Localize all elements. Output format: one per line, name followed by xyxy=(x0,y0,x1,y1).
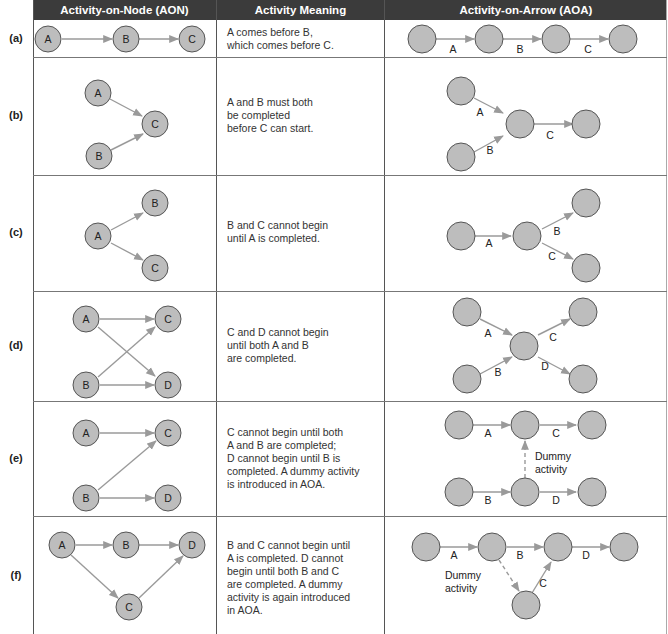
svg-text:B: B xyxy=(82,492,89,504)
svg-text:B: B xyxy=(516,43,523,55)
aoa-diagram-d: A B C D xyxy=(453,298,597,393)
svg-text:C: C xyxy=(125,601,133,613)
svg-text:B: B xyxy=(484,494,491,506)
svg-text:C: C xyxy=(552,427,560,439)
svg-text:A: A xyxy=(476,106,483,118)
svg-text:B: B xyxy=(494,366,501,378)
svg-text:C: C xyxy=(164,313,172,325)
svg-text:B: B xyxy=(122,33,129,45)
svg-text:C: C xyxy=(539,577,547,589)
svg-text:B: B xyxy=(151,197,158,209)
svg-text:A: A xyxy=(82,427,89,439)
row-label-f: (f) xyxy=(0,569,32,581)
svg-text:A: A xyxy=(484,427,491,439)
row-label-e: (e) xyxy=(0,452,32,464)
svg-text:C: C xyxy=(188,33,196,45)
aon-diagram-a: A B C xyxy=(35,26,205,52)
svg-text:A: A xyxy=(94,87,101,99)
svg-text:B: B xyxy=(82,379,89,391)
aoa-diagram-c: A B C xyxy=(447,189,600,282)
svg-text:D: D xyxy=(582,549,590,561)
row-label-d: (d) xyxy=(0,339,32,351)
svg-text:A: A xyxy=(484,327,491,339)
aon-diagram-b: A B C xyxy=(85,80,168,169)
svg-text:B: B xyxy=(122,539,129,551)
svg-text:A: A xyxy=(82,313,89,325)
aoa-diagram-b: A B C xyxy=(447,77,600,171)
svg-text:D: D xyxy=(164,379,172,391)
svg-text:B: B xyxy=(486,144,493,156)
svg-text:A: A xyxy=(94,230,101,242)
aon-diagram-d: A B C D xyxy=(73,306,181,398)
aoa-diagram-f: A B C D Dummy activity xyxy=(412,533,638,619)
dummy-activity-arrow xyxy=(499,560,519,591)
svg-text:C: C xyxy=(151,118,159,130)
aon-diagram-c: A B C xyxy=(85,190,168,281)
svg-text:Dummy: Dummy xyxy=(445,569,482,581)
row-label-a: (a) xyxy=(0,32,32,44)
svg-text:D: D xyxy=(188,539,196,551)
svg-text:A: A xyxy=(44,33,51,45)
svg-text:C: C xyxy=(151,262,159,274)
svg-text:Dummy: Dummy xyxy=(535,450,572,462)
row-label-c: (c) xyxy=(0,226,32,238)
svg-text:D: D xyxy=(541,360,549,372)
svg-text:C: C xyxy=(548,250,556,262)
network-diagrams: A B C A B C A B C xyxy=(33,0,667,634)
svg-text:C: C xyxy=(164,427,172,439)
aoa-diagram-a: A B C xyxy=(408,25,637,55)
aoa-diagram-e: A B C D Dummy activity xyxy=(445,411,606,506)
svg-text:activity: activity xyxy=(535,463,568,475)
row-label-b: (b) xyxy=(0,109,32,121)
svg-text:C: C xyxy=(546,129,554,141)
svg-text:B: B xyxy=(516,549,523,561)
svg-text:D: D xyxy=(164,492,172,504)
svg-text:A: A xyxy=(485,237,492,249)
svg-text:activity: activity xyxy=(445,582,478,594)
aon-aoa-comparison-table: Activity-on-Node (AON) Activity Meaning … xyxy=(33,0,667,634)
svg-text:C: C xyxy=(549,331,557,343)
svg-text:A: A xyxy=(58,539,65,551)
svg-text:C: C xyxy=(584,43,592,55)
svg-text:A: A xyxy=(449,43,456,55)
aon-diagram-e: A B C D xyxy=(73,420,181,511)
svg-text:B: B xyxy=(553,225,560,237)
svg-text:D: D xyxy=(552,494,560,506)
aon-diagram-f: A B C D xyxy=(49,532,205,620)
svg-text:B: B xyxy=(95,150,102,162)
svg-text:A: A xyxy=(450,549,457,561)
